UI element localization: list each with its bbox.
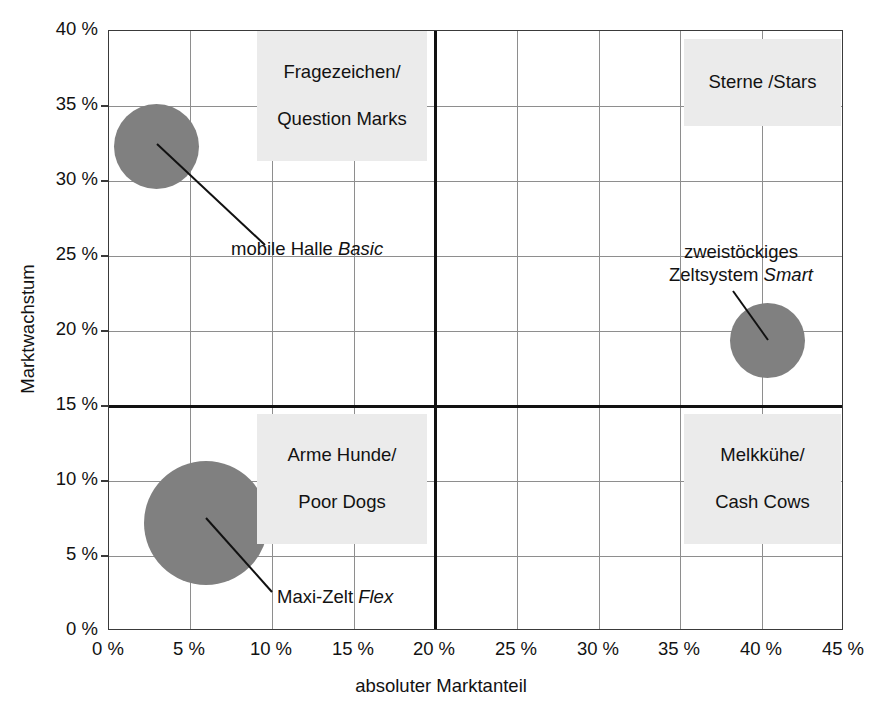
y-axis-title: Marktwachstum bbox=[17, 209, 39, 449]
quadrant-label-question-marks-line1: Fragezeichen/ bbox=[269, 60, 415, 84]
xtick-label-35: 35 % bbox=[639, 638, 719, 660]
ytick-label-40: 40 % bbox=[18, 18, 98, 40]
callout-smart-plain: Zeltsystem bbox=[669, 264, 764, 285]
quadrant-label-poor-dogs: Arme Hunde/ Poor Dogs bbox=[257, 414, 427, 544]
bubble-maxi-zelt-flex[interactable] bbox=[144, 461, 268, 585]
callout-zeltsystem-smart: zweistöckiges Zeltsystem Smart bbox=[641, 240, 841, 287]
xtick-label-20: 20 % bbox=[394, 638, 474, 660]
xtick-label-45: 45 % bbox=[803, 638, 882, 660]
gridline-x-30 bbox=[599, 31, 600, 629]
callout-smart-line2: Zeltsystem Smart bbox=[641, 263, 841, 286]
ytick-label-5: 5 % bbox=[18, 543, 98, 565]
quadrant-label-cash-cows: Melkkühe/ Cash Cows bbox=[684, 414, 841, 544]
quadrant-divider-horizontal bbox=[109, 405, 842, 408]
xtick-label-0: 0 % bbox=[68, 638, 148, 660]
ytick-label-10: 10 % bbox=[18, 468, 98, 490]
quadrant-label-stars-line1: Sterne /Stars bbox=[696, 70, 829, 94]
quadrant-label-question-marks-line2: Question Marks bbox=[269, 107, 415, 131]
quadrant-label-stars: Sterne /Stars bbox=[684, 39, 841, 126]
callout-basic-plain: mobile Halle bbox=[231, 238, 338, 259]
xtick-label-30: 30 % bbox=[558, 638, 638, 660]
ytick-mark-15 bbox=[101, 405, 108, 407]
callout-smart-italic: Smart bbox=[764, 264, 813, 285]
xtick-label-10: 10 % bbox=[231, 638, 311, 660]
quadrant-label-cash-cows-line1: Melkkühe/ bbox=[696, 443, 829, 467]
gridline-y-30 bbox=[109, 181, 842, 182]
ytick-label-35: 35 % bbox=[18, 93, 98, 115]
ytick-mark-20 bbox=[101, 330, 108, 332]
quadrant-label-question-marks: Fragezeichen/ Question Marks bbox=[257, 31, 427, 161]
gridline-x-25 bbox=[517, 31, 518, 629]
callout-flex-italic: Flex bbox=[358, 586, 393, 607]
bubble-zeltsystem-smart[interactable] bbox=[730, 303, 805, 378]
ytick-mark-25 bbox=[101, 255, 108, 257]
quadrant-label-poor-dogs-line2: Poor Dogs bbox=[269, 490, 415, 514]
callout-flex-plain: Maxi-Zelt bbox=[277, 586, 358, 607]
ytick-mark-30 bbox=[101, 180, 108, 182]
bcg-matrix-chart: Fragezeichen/ Question Marks Sterne /Sta… bbox=[0, 0, 882, 711]
callout-mobile-halle-basic: mobile Halle Basic bbox=[231, 237, 383, 260]
xtick-label-15: 15 % bbox=[313, 638, 393, 660]
ytick-label-0: 0 % bbox=[18, 618, 98, 640]
callout-smart-line1: zweistöckiges bbox=[641, 240, 841, 263]
x-axis-title: absoluter Marktanteil bbox=[0, 675, 882, 697]
ytick-mark-10 bbox=[101, 480, 108, 482]
gridline-x-35 bbox=[680, 31, 681, 629]
callout-basic-italic: Basic bbox=[338, 238, 383, 259]
ytick-mark-5 bbox=[101, 555, 108, 557]
quadrant-label-poor-dogs-line1: Arme Hunde/ bbox=[269, 443, 415, 467]
xtick-label-5: 5 % bbox=[149, 638, 229, 660]
ytick-label-30: 30 % bbox=[18, 168, 98, 190]
quadrant-label-cash-cows-line2: Cash Cows bbox=[696, 490, 829, 514]
xtick-label-25: 25 % bbox=[476, 638, 556, 660]
xtick-label-40: 40 % bbox=[721, 638, 801, 660]
callout-maxi-zelt-flex: Maxi-Zelt Flex bbox=[277, 585, 393, 608]
bubble-mobile-halle-basic[interactable] bbox=[114, 104, 199, 189]
ytick-mark-35 bbox=[101, 105, 108, 107]
plot-area: Fragezeichen/ Question Marks Sterne /Sta… bbox=[108, 30, 843, 630]
quadrant-divider-vertical bbox=[434, 31, 437, 629]
